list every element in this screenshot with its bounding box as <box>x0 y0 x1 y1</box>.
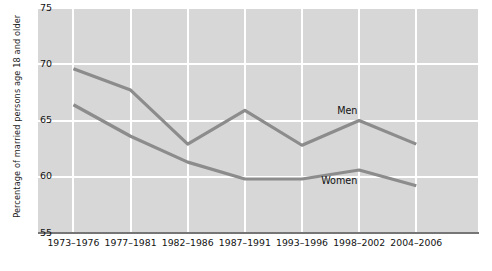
y-tick-label-70: 70 <box>40 58 64 69</box>
y-tick-label-55: 55 <box>40 227 64 238</box>
x-tick-label-6: 2004–2006 <box>386 237 446 248</box>
y-axis-title-text: Percentage of married persons age 18 and… <box>13 15 24 218</box>
x-tick-label-5: 1998–2002 <box>329 237 389 248</box>
series-container <box>38 8 478 233</box>
series-label-men: Men <box>337 105 357 116</box>
y-tick-label-65: 65 <box>40 114 64 125</box>
y-axis-title: Percentage of married persons age 18 and… <box>0 0 36 233</box>
x-tick-label-0: 1973–1976 <box>43 237 103 248</box>
line-chart: Percentage of married persons age 18 and… <box>0 0 492 271</box>
x-tick-label-2: 1982–1986 <box>158 237 218 248</box>
x-tick-label-1: 1977–1981 <box>101 237 161 248</box>
series-line-women <box>73 105 416 186</box>
y-tick-label-75: 75 <box>40 2 64 13</box>
x-tick-label-3: 1987–1991 <box>215 237 275 248</box>
series-label-women: Women <box>321 175 357 186</box>
x-tick-label-4: 1993–1996 <box>272 237 332 248</box>
y-tick-label-60: 60 <box>40 170 64 181</box>
